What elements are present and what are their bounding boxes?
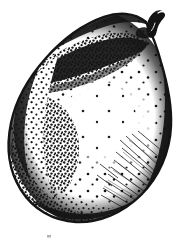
base-mark: [47, 235, 51, 238]
pear-illustration: [0, 0, 184, 243]
artwork-canvas: [0, 0, 184, 243]
